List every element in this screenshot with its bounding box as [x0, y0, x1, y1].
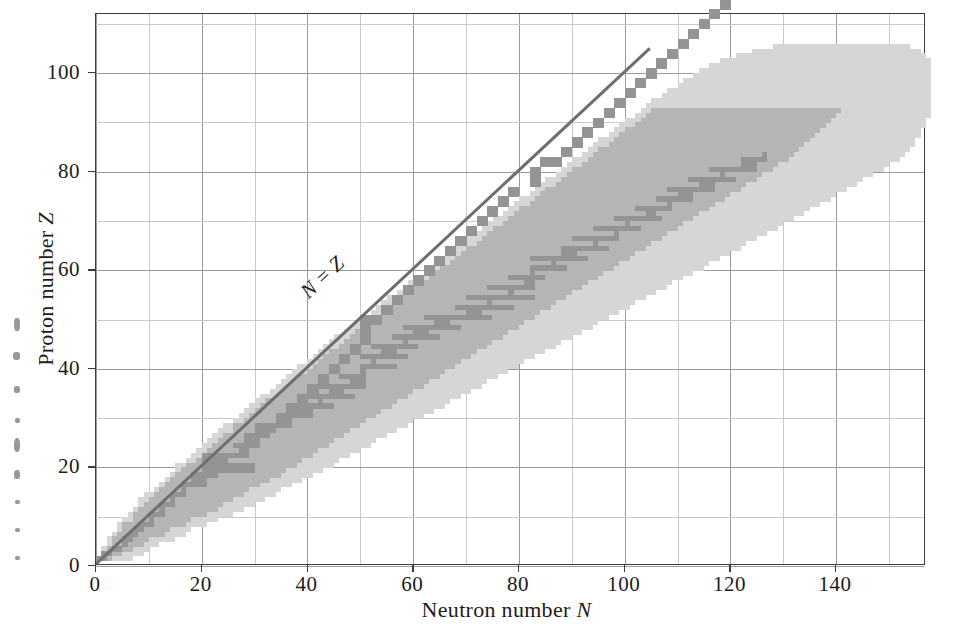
- x-tick: [518, 565, 519, 572]
- x-tick: [95, 565, 96, 572]
- x-tick: [201, 565, 202, 572]
- x-tick: [412, 565, 413, 572]
- x-tick-label: 100: [607, 572, 640, 597]
- y-tick-label: 100: [0, 60, 80, 85]
- axis-title-symbol: N: [576, 597, 591, 622]
- stable-nuclide-marker: [720, 0, 731, 10]
- x-tick-label: 140: [819, 572, 852, 597]
- x-tick-label: 0: [90, 572, 101, 597]
- scan-artifact: [14, 318, 20, 331]
- x-tick: [307, 565, 308, 572]
- plot-area: N = Z: [95, 13, 925, 565]
- scan-artifact: [15, 500, 20, 504]
- scan-artifact: [14, 386, 20, 393]
- y-axis-title: Proton number Z: [33, 139, 59, 439]
- scan-artifact: [15, 418, 20, 423]
- x-tick: [624, 565, 625, 572]
- nuclide-chart-figure: N = Z 020406080100120140 020406080100 Ne…: [0, 0, 953, 633]
- axis-title-words: Proton number: [33, 225, 58, 366]
- y-tick-label: 0: [0, 553, 80, 578]
- y-tick-label: 20: [0, 454, 80, 479]
- x-tick-label: 80: [507, 572, 529, 597]
- y-tick: [88, 466, 95, 467]
- y-tick: [88, 72, 95, 73]
- reference-line-layer: N = Z: [96, 14, 924, 564]
- x-tick-label: 40: [296, 572, 318, 597]
- axis-title-words: Neutron number: [422, 597, 577, 622]
- x-tick: [835, 565, 836, 572]
- x-tick-label: 60: [401, 572, 423, 597]
- y-tick: [88, 368, 95, 369]
- x-tick-label: 20: [190, 572, 212, 597]
- x-axis-title: Neutron number N: [0, 597, 953, 623]
- y-tick: [88, 171, 95, 172]
- y-tick: [88, 565, 95, 566]
- axis-title-symbol: Z: [33, 212, 58, 225]
- n-equals-z-line: [96, 14, 924, 564]
- n-equals-z-stroke: [96, 48, 650, 564]
- scan-artifact: [15, 528, 20, 532]
- x-tick-label: 120: [713, 572, 746, 597]
- x-tick: [729, 565, 730, 572]
- scan-artifact: [14, 438, 20, 452]
- y-tick: [88, 269, 95, 270]
- gridline-horizontal: [96, 566, 924, 567]
